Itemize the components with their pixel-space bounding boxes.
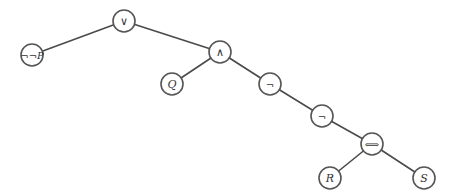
node-or: ∨	[113, 10, 135, 32]
node-label: R	[325, 172, 334, 185]
node-not1: ¬	[259, 73, 281, 95]
node-r: R	[319, 167, 341, 189]
node-iff: ⟺	[361, 133, 383, 155]
node-label: ∧	[216, 46, 224, 59]
node-label: Q	[167, 78, 176, 91]
node-not2: ¬	[311, 105, 333, 127]
node-label: ¬	[266, 79, 274, 90]
parse-tree-diagram: ∨¬¬P∧Q¬¬⟺RS	[0, 0, 451, 196]
node-nnp: ¬¬P	[20, 44, 44, 66]
node-s: S	[413, 167, 435, 189]
node-label: ∨	[120, 15, 128, 28]
edge-or-nnp	[32, 21, 124, 55]
node-label: S	[420, 172, 428, 185]
node-and: ∧	[209, 41, 231, 63]
node-label: ¬	[318, 111, 326, 122]
edge-or-and	[124, 21, 220, 52]
node-q: Q	[161, 73, 183, 95]
node-label: ⟺	[365, 139, 379, 150]
node-label: ¬¬P	[20, 50, 44, 61]
